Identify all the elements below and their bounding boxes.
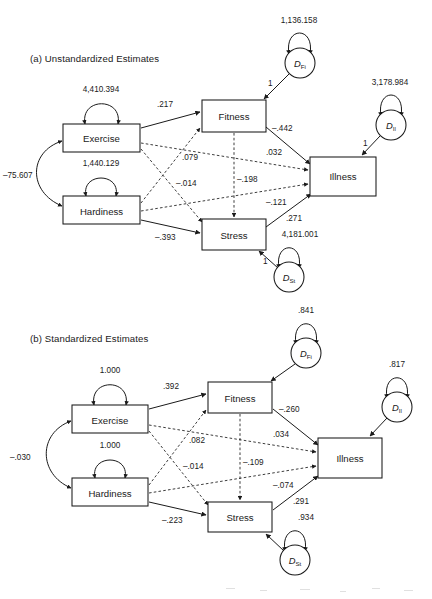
path-exercise-fitness-b — [149, 394, 206, 409]
node-hardiness-label-b: Hardiness — [88, 488, 131, 499]
path-diagram-svg: (a) Unstandardized Estimates 4,410.394 1… — [0, 0, 432, 599]
covariance-label-b: –.030 — [10, 453, 31, 462]
node-illness-label-b: Illness — [336, 453, 363, 464]
path-hardiness-stress-label-b: –.223 — [162, 516, 183, 525]
path-exercise-stress-label-b: –.014 — [183, 462, 204, 471]
path-hardiness-stress-a — [141, 220, 200, 233]
scan-artifact — [372, 588, 380, 589]
scan-artifact — [340, 591, 346, 592]
panel-b-title: (b) Standardized Estimates — [30, 333, 148, 344]
d-fitness-variance-label-b: .841 — [298, 306, 314, 315]
path-exercise-fitness-label-b: .392 — [163, 382, 179, 391]
path-fitness-stress-label-a: –.198 — [237, 175, 258, 184]
path-hardiness-fitness-b — [149, 410, 206, 485]
hardiness-variance-label-b: 1.000 — [100, 441, 121, 450]
loading-dstress-a: 1 — [263, 257, 268, 266]
path-hardiness-illness-label-b: –.074 — [273, 481, 294, 490]
exercise-hardiness-covariance-b — [46, 421, 71, 488]
panel-a-title: (a) Unstandardized Estimates — [30, 53, 159, 64]
node-hardiness-label-a: Hardiness — [80, 206, 123, 217]
d-stress-variance-label-a: 4,181.001 — [282, 230, 319, 239]
path-exercise-illness-label-b: .034 — [273, 430, 289, 439]
scan-artifact — [260, 590, 267, 591]
path-fitness-illness-label-b: –.260 — [279, 405, 300, 414]
path-fitness-stress-label-b: –.109 — [243, 458, 264, 467]
path-exercise-fitness-a — [141, 112, 200, 128]
hardiness-variance-label-a: 1,440.129 — [83, 159, 120, 168]
sem-figure: (a) Unstandardized Estimates 4,410.394 1… — [0, 0, 432, 599]
node-exercise-label-a: Exercise — [83, 133, 120, 144]
path-stress-illness-label-a: .271 — [286, 214, 302, 223]
path-exercise-stress-label-a: –.014 — [176, 179, 197, 188]
node-fitness-label-b: Fitness — [225, 393, 256, 404]
path-fitness-illness-b — [273, 409, 318, 445]
node-illness-label-a: Illness — [329, 171, 356, 182]
path-hardiness-fitness-label-b: .082 — [189, 436, 205, 445]
node-stress-label-a: Stress — [220, 230, 247, 241]
path-exercise-illness-b — [149, 425, 316, 452]
path-dfitness-fitness-b — [271, 364, 295, 381]
d-stress-variance-label-b: .934 — [298, 513, 314, 522]
hardiness-variance-loop-b — [95, 460, 126, 478]
path-hardiness-fitness-a — [141, 128, 200, 203]
path-stress-illness-label-b: .291 — [293, 497, 309, 506]
path-dillness-illness-b — [370, 418, 387, 436]
covariance-label-a: –75.607 — [3, 171, 33, 180]
node-exercise-label-b: Exercise — [92, 415, 129, 426]
d-fitness-variance-label-a: 1,136.158 — [281, 16, 318, 25]
d-illness-variance-label-a: 3,178.984 — [372, 78, 409, 87]
path-fitness-illness-label-a: –.442 — [272, 124, 293, 133]
exercise-variance-label-a: 4,410.394 — [83, 85, 120, 94]
scan-artifact — [404, 590, 413, 591]
path-hardiness-illness-label-a: –.121 — [266, 198, 287, 207]
path-exercise-illness-a — [141, 143, 308, 170]
scan-artifact — [300, 589, 310, 590]
node-fitness-label-a: Fitness — [219, 111, 250, 122]
exercise-variance-label-b: 1.000 — [100, 366, 121, 375]
path-dstress-stress-b — [266, 534, 284, 551]
exercise-variance-loop-b — [94, 385, 127, 405]
path-hardiness-stress-label-a: –.393 — [155, 233, 176, 242]
exercise-hardiness-covariance-a — [37, 141, 63, 206]
path-exercise-fitness-label-a: .217 — [157, 100, 173, 109]
scan-artifact — [226, 588, 235, 589]
loading-dfitness-a: 1 — [268, 79, 273, 88]
hardiness-variance-loop-a — [86, 178, 117, 196]
path-hardiness-fitness-label-a: .079 — [182, 153, 198, 162]
exercise-variance-loop-a — [85, 104, 119, 124]
path-exercise-illness-label-a: .032 — [266, 148, 282, 157]
d-illness-variance-label-b: .817 — [389, 360, 405, 369]
path-hardiness-stress-b — [149, 502, 206, 515]
path-dstress-stress-a — [259, 251, 278, 268]
node-stress-label-b: Stress — [226, 512, 253, 523]
loading-dillness-a: 1 — [363, 139, 368, 148]
